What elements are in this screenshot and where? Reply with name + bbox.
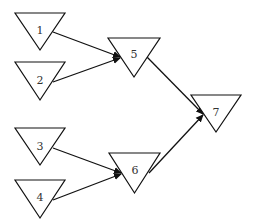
node-label: 3 — [37, 140, 44, 153]
tree-diagram: 1234567 — [0, 0, 253, 224]
node-1: 1 — [15, 13, 65, 50]
edge-6-to-7 — [149, 115, 203, 173]
nodes: 1234567 — [15, 13, 241, 218]
edge-4-to-6 — [53, 174, 121, 200]
node-label: 5 — [131, 48, 138, 61]
node-label: 4 — [37, 191, 44, 204]
diagram-canvas: 1234567 — [0, 0, 253, 224]
edge-1-to-5 — [53, 32, 120, 57]
node-label: 2 — [37, 74, 44, 87]
edge-5-to-7 — [147, 57, 203, 114]
node-label: 7 — [213, 106, 220, 119]
node-5: 5 — [108, 38, 160, 77]
node-4: 4 — [15, 180, 65, 218]
node-label: 6 — [132, 164, 139, 177]
edge-3-to-6 — [53, 148, 121, 173]
node-label: 1 — [37, 24, 44, 37]
node-6: 6 — [109, 153, 160, 193]
node-7: 7 — [191, 95, 241, 132]
node-3: 3 — [15, 128, 65, 165]
